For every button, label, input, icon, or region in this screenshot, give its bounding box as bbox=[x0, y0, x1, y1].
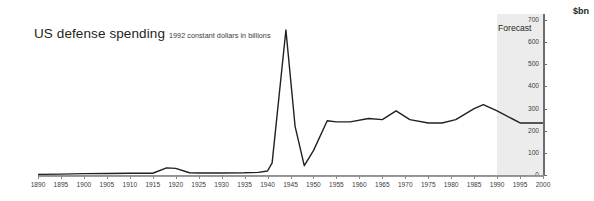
chart-container: US defense spending1992 constant dollars… bbox=[0, 0, 594, 201]
x-axis-tick bbox=[359, 175, 360, 179]
x-axis-tick bbox=[61, 175, 62, 179]
x-axis-tick bbox=[474, 175, 475, 179]
y-axis-unit-label: $bn bbox=[573, 6, 589, 16]
x-axis-tick bbox=[405, 175, 406, 179]
x-axis-tick bbox=[38, 175, 39, 179]
y-axis-label: 200 bbox=[513, 127, 539, 134]
data-line-svg bbox=[38, 20, 543, 175]
x-axis-tick bbox=[520, 175, 521, 179]
y-axis-tick bbox=[543, 131, 547, 132]
y-axis-label: 600 bbox=[513, 38, 539, 45]
x-axis-tick bbox=[428, 175, 429, 179]
y-axis-tick bbox=[543, 109, 547, 110]
y-axis-label: 700 bbox=[513, 16, 539, 23]
y-axis-label: 300 bbox=[513, 105, 539, 112]
x-axis-tick bbox=[153, 175, 154, 179]
plot-area: Forecast bbox=[38, 20, 543, 175]
y-axis-tick bbox=[543, 42, 547, 43]
y-axis-tick bbox=[543, 86, 547, 87]
x-axis-tick bbox=[176, 175, 177, 179]
x-axis-tick bbox=[543, 175, 544, 179]
x-axis-tick bbox=[268, 175, 269, 179]
x-axis-tick bbox=[382, 175, 383, 179]
x-axis-tick bbox=[199, 175, 200, 179]
x-axis-tick bbox=[84, 175, 85, 179]
y-axis-tick bbox=[543, 64, 547, 65]
y-axis-label: 400 bbox=[513, 82, 539, 89]
y-axis-label: 500 bbox=[513, 60, 539, 67]
y-axis-tick bbox=[543, 20, 547, 21]
x-axis-tick bbox=[222, 175, 223, 179]
x-axis-tick bbox=[107, 175, 108, 179]
y-axis-line bbox=[543, 14, 545, 175]
x-axis-tick bbox=[497, 175, 498, 179]
x-axis-label: 2000 bbox=[529, 181, 557, 188]
x-axis-tick bbox=[336, 175, 337, 179]
x-axis-tick bbox=[291, 175, 292, 179]
y-axis-label: 100 bbox=[513, 149, 539, 156]
x-axis-tick bbox=[313, 175, 314, 179]
data-line bbox=[38, 30, 543, 174]
x-axis-tick bbox=[130, 175, 131, 179]
y-axis-tick bbox=[543, 153, 547, 154]
x-axis-tick bbox=[245, 175, 246, 179]
x-axis-tick bbox=[451, 175, 452, 179]
